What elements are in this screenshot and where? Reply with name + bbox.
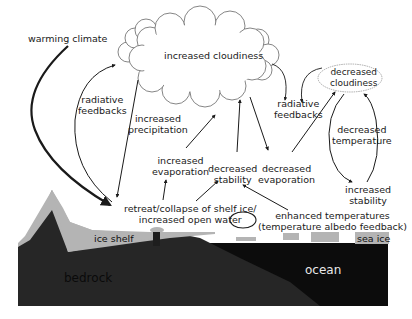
label-line: decreased [258, 163, 315, 174]
label-line: cloudiness [330, 78, 378, 89]
label-radiative-feedbacks-right: radiative feedbacks [274, 98, 323, 120]
label-radiative-feedbacks-left: radiative feedbacks [78, 94, 127, 116]
label-line: stability [345, 195, 391, 206]
label-decreased-stability: decreased stability [208, 163, 257, 185]
label-warming-climate: warming climate [28, 33, 107, 44]
label-retreat-collapse: retreat/collapse of shelf ice/ increased… [124, 203, 256, 225]
label-increased-precipitation: increased precipitation [128, 113, 188, 135]
label-increased-evaporation: increased evaporation [152, 155, 209, 177]
label-line: precipitation [128, 124, 188, 135]
label-line: evaporation [258, 174, 315, 185]
label-line: evaporation [152, 166, 209, 177]
label-line: radiative [78, 94, 127, 105]
label-line: increased open water [124, 214, 256, 225]
label-decreased-evaporation: decreased evaporation [258, 163, 315, 185]
label-line: feedbacks [78, 105, 127, 116]
label-line: feedbacks [274, 109, 323, 120]
label-line: decreased [332, 124, 392, 135]
label-line: enhanced temperatures [258, 210, 407, 221]
label-decreased-temperature: decreased temperature [332, 124, 392, 146]
label-increased-cloudiness: increased cloudiness [164, 50, 263, 61]
label-ice-shelf: ice shelf [94, 233, 134, 244]
label-increased-stability: increased stability [345, 184, 391, 206]
label-line: radiative [274, 98, 323, 109]
label-line: decreased [208, 163, 257, 174]
label-line: increased [345, 184, 391, 195]
label-line: increased [152, 155, 209, 166]
label-line: temperature [332, 135, 392, 146]
label-line: decreased [330, 67, 378, 78]
label-line: (temperature albedo feedback) [258, 221, 407, 232]
label-decreased-cloudiness: decreased cloudiness [330, 67, 378, 89]
label-ocean: ocean [305, 265, 341, 276]
label-bedrock: bedrock [64, 273, 112, 284]
label-line: stability [208, 174, 257, 185]
label-line: increased [128, 113, 188, 124]
label-line: retreat/collapse of shelf ice/ [124, 203, 256, 214]
label-enhanced-temperatures: enhanced temperatures (temperature albed… [258, 210, 407, 232]
label-sea-ice: sea ice [357, 233, 390, 244]
